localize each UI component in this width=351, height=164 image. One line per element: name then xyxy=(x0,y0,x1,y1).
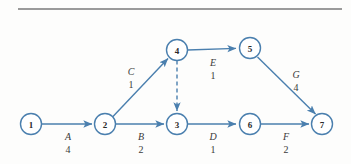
node-1-label: 1 xyxy=(29,120,34,130)
edge-label-D: D 1 xyxy=(208,131,217,155)
node-4-label: 4 xyxy=(175,46,180,56)
node-3-label: 3 xyxy=(175,120,180,130)
node-2[interactable]: 2 xyxy=(95,114,116,135)
edge-label-G: G 4 xyxy=(292,69,299,93)
edge-F-weight: 2 xyxy=(284,144,289,155)
edge-G-letter: G xyxy=(292,69,299,80)
node-6[interactable]: 6 xyxy=(240,114,261,135)
edge-C-letter: C xyxy=(128,66,135,77)
edge-B-letter: B xyxy=(138,131,144,142)
edge-F-letter: F xyxy=(282,131,290,142)
edge-C-line xyxy=(113,59,169,118)
node-7-label: 7 xyxy=(320,120,325,130)
edge-E-weight: 1 xyxy=(211,70,216,81)
network-diagram-graphic: 1 2 3 4 5 6 7 xyxy=(0,0,351,164)
edge-label-C: C 1 xyxy=(128,66,135,90)
edge-D-letter: D xyxy=(208,131,217,142)
node-1[interactable]: 1 xyxy=(21,114,42,135)
edge-label-A: A 4 xyxy=(64,131,72,155)
node-2-label: 2 xyxy=(103,120,108,130)
edge-A-letter: A xyxy=(64,131,72,142)
node-4[interactable]: 4 xyxy=(167,40,188,61)
edge-E-line xyxy=(188,48,237,50)
node-5-label: 5 xyxy=(248,44,253,54)
figure-canvas: 1 2 3 4 5 6 7 xyxy=(0,0,351,164)
edge-label-E: E 1 xyxy=(209,57,216,81)
edge-label-F: F 2 xyxy=(282,131,290,155)
edge-A-weight: 4 xyxy=(66,144,71,155)
edge-label-B: B 2 xyxy=(138,131,144,155)
node-3[interactable]: 3 xyxy=(167,114,188,135)
edge-C-weight: 1 xyxy=(129,79,134,90)
edge-G-weight: 4 xyxy=(294,82,299,93)
node-6-label: 6 xyxy=(248,120,253,130)
nodes-layer: 1 2 3 4 5 6 7 xyxy=(21,38,333,135)
edge-D-weight: 1 xyxy=(211,144,216,155)
edge-labels-layer: A 4 B 2 C 1 D 1 E 1 F 2 xyxy=(64,57,300,155)
node-5[interactable]: 5 xyxy=(240,38,261,59)
node-7[interactable]: 7 xyxy=(312,114,333,135)
edge-G-line xyxy=(258,57,316,114)
edge-E-letter: E xyxy=(209,57,216,68)
edge-B-weight: 2 xyxy=(139,144,144,155)
